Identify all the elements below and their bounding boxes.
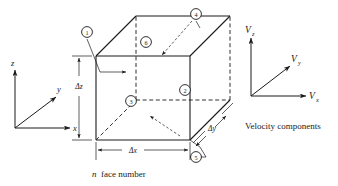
z-axis-label: z bbox=[10, 58, 15, 68]
face-number-1-label: 1 bbox=[85, 29, 88, 36]
dimension-delta-y: Δy bbox=[193, 103, 233, 146]
cube-caption-text: face number bbox=[101, 169, 146, 179]
face-number-6: 6 bbox=[141, 37, 152, 48]
delta-y-label: Δy bbox=[207, 124, 216, 133]
dimension-delta-x: Δx bbox=[96, 142, 190, 160]
y-axis-label: y bbox=[56, 84, 61, 94]
figure-canvas: z y x 1 bbox=[0, 0, 338, 186]
x-axis-label: x bbox=[72, 123, 77, 133]
position-axes: z y x bbox=[10, 58, 77, 133]
vx-axis-subscript: x bbox=[315, 96, 319, 103]
vz-axis-subscript: z bbox=[251, 30, 255, 37]
leader-arrow-face-4 bbox=[162, 21, 192, 55]
delta-y-extension-near bbox=[193, 131, 205, 143]
face-number-4: 4 bbox=[191, 9, 202, 20]
face-number-3-label: 3 bbox=[129, 98, 132, 105]
cube-edge-top-left-diagonal bbox=[96, 16, 136, 56]
face-number-1: 1 bbox=[82, 27, 93, 38]
face-number-2: 2 bbox=[180, 85, 191, 96]
vx-axis-label: V bbox=[309, 91, 316, 101]
face-number-6-label: 6 bbox=[144, 39, 147, 46]
leader-face-4-stem bbox=[196, 21, 200, 28]
diagram-svg: z y x 1 bbox=[0, 0, 338, 186]
delta-y-arrow-far bbox=[215, 116, 226, 127]
face-number-4-label: 4 bbox=[194, 11, 197, 18]
face-number-5-label: 5 bbox=[194, 154, 197, 161]
velocity-caption: Velocity components bbox=[245, 121, 321, 131]
vy-axis-subscript: y bbox=[297, 59, 301, 66]
cube-caption-n: n bbox=[92, 169, 97, 179]
cube-caption: n face number bbox=[92, 169, 146, 179]
face-number-3: 3 bbox=[126, 96, 137, 107]
delta-z-label: Δz bbox=[74, 82, 82, 91]
vy-axis-arrow bbox=[251, 66, 290, 96]
delta-y-arrow-near bbox=[196, 136, 206, 146]
vz-axis-label: V bbox=[245, 25, 252, 35]
leader-arrow-face-5 bbox=[150, 116, 180, 136]
cube-edge-top-right-diagonal bbox=[190, 16, 230, 56]
y-axis-arrow bbox=[15, 97, 56, 128]
delta-y-extension-far bbox=[222, 103, 233, 114]
velocity-axes: V z V y V x Velocity components bbox=[245, 25, 321, 131]
face-number-5: 5 bbox=[191, 152, 202, 163]
cube-edge-right-bottom-diagonal bbox=[190, 100, 230, 140]
face-number-2-label: 2 bbox=[183, 87, 186, 94]
cube bbox=[96, 16, 230, 140]
vy-axis-label: V bbox=[291, 54, 298, 64]
delta-x-label: Δx bbox=[128, 146, 137, 155]
